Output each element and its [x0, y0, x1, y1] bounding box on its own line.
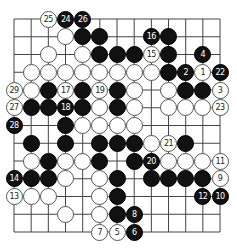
move-number: 29: [9, 86, 18, 95]
move-number: 16: [147, 32, 156, 41]
black-stone: [23, 135, 40, 152]
black-stone: [177, 82, 194, 99]
black-stone: [109, 46, 126, 63]
white-stone: [177, 153, 194, 170]
black-stone: [109, 135, 126, 152]
white-stone: 27: [6, 99, 23, 116]
black-stone: [143, 170, 160, 187]
white-stone: [91, 64, 108, 81]
white-stone: 7: [91, 224, 108, 241]
black-stone: [40, 153, 57, 170]
white-stone: 5: [109, 224, 126, 241]
white-stone: [40, 64, 57, 81]
white-stone: 13: [6, 188, 23, 205]
white-stone: [126, 99, 143, 116]
black-stone: [40, 99, 57, 116]
black-stone: 8: [126, 206, 143, 223]
black-stone: [74, 82, 91, 99]
white-stone: [126, 117, 143, 134]
move-number: 1: [201, 68, 206, 77]
white-stone: [23, 188, 40, 205]
white-stone: [91, 206, 108, 223]
white-stone: [74, 64, 91, 81]
white-stone: 23: [212, 99, 229, 116]
black-stone: [109, 99, 126, 116]
black-stone: 2: [177, 64, 194, 81]
white-stone: [40, 46, 57, 63]
move-number: 22: [215, 68, 224, 77]
black-stone: [126, 135, 143, 152]
white-stone: 21: [160, 135, 177, 152]
move-number: 8: [132, 210, 137, 219]
black-stone: [40, 82, 57, 99]
white-stone: 11: [212, 153, 229, 170]
move-number: 7: [98, 228, 103, 237]
white-stone: [23, 82, 40, 99]
black-stone: [109, 82, 126, 99]
black-stone: [109, 206, 126, 223]
move-number: 20: [147, 157, 156, 166]
move-number: 26: [78, 15, 87, 24]
move-number: 4: [201, 50, 206, 59]
white-stone: 17: [57, 82, 74, 99]
black-stone: [109, 170, 126, 187]
white-stone: [126, 64, 143, 81]
move-number: 10: [215, 192, 224, 201]
black-stone: [23, 99, 40, 116]
move-number: 27: [9, 103, 18, 112]
move-number: 12: [198, 192, 207, 201]
white-stone: 15: [143, 46, 160, 63]
black-stone: [126, 153, 143, 170]
move-number: 11: [215, 157, 224, 166]
black-stone: 14: [6, 170, 23, 187]
move-number: 28: [9, 121, 18, 130]
move-number: 21: [164, 139, 173, 148]
white-stone: [109, 117, 126, 134]
black-stone: 26: [74, 11, 91, 28]
move-number: 23: [215, 103, 224, 112]
white-stone: [143, 64, 160, 81]
white-stone: [74, 153, 91, 170]
black-stone: [109, 188, 126, 205]
white-stone: 3: [212, 82, 229, 99]
white-stone: 25: [40, 11, 57, 28]
move-number: 6: [132, 228, 137, 237]
move-number: 5: [115, 228, 120, 237]
white-stone: 19: [91, 82, 108, 99]
white-stone: [109, 64, 126, 81]
black-stone: [57, 135, 74, 152]
move-number: 17: [61, 86, 70, 95]
black-stone: [160, 64, 177, 81]
black-stone: [91, 135, 108, 152]
black-stone: [194, 82, 211, 99]
move-number: 18: [61, 103, 70, 112]
white-stone: [160, 153, 177, 170]
black-stone: [126, 46, 143, 63]
white-stone: [23, 153, 40, 170]
black-stone: [57, 117, 74, 134]
white-stone: [40, 188, 57, 205]
white-stone: 1: [194, 64, 211, 81]
black-stone: [160, 46, 177, 63]
white-stone: 29: [6, 82, 23, 99]
black-stone: 28: [6, 117, 23, 134]
white-stone: [126, 82, 143, 99]
white-stone: [57, 153, 74, 170]
white-stone: [194, 153, 211, 170]
white-stone: [143, 135, 160, 152]
black-stone: 16: [143, 28, 160, 45]
move-number: 13: [9, 192, 18, 201]
black-stone: [40, 170, 57, 187]
move-number: 9: [218, 174, 223, 183]
white-stone: 9: [212, 170, 229, 187]
black-stone: 10: [212, 188, 229, 205]
black-stone: [23, 170, 40, 187]
move-number: 24: [61, 15, 70, 24]
move-number: 25: [44, 15, 53, 24]
black-stone: [177, 135, 194, 152]
move-number: 2: [183, 68, 188, 77]
move-number: 19: [95, 86, 104, 95]
white-stone: [23, 64, 40, 81]
black-stone: 22: [212, 64, 229, 81]
black-stone: 24: [57, 11, 74, 28]
